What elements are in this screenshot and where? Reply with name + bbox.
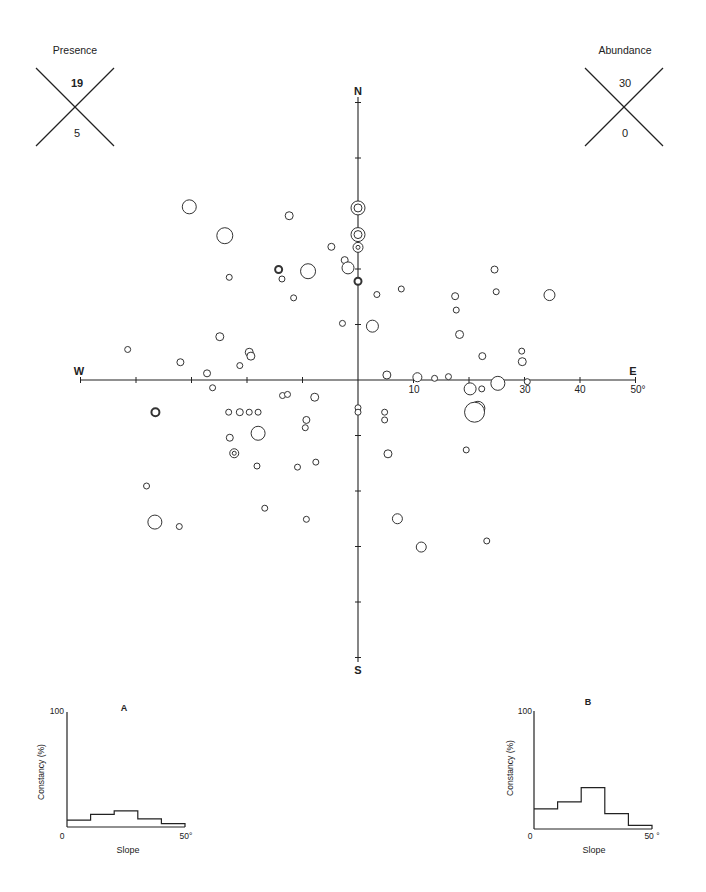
data-point [151, 408, 159, 416]
data-point [384, 450, 392, 458]
data-point [342, 262, 354, 274]
data-point [382, 409, 388, 415]
data-point [302, 425, 308, 431]
data-point [382, 417, 388, 423]
tick-label-40: 40 [574, 384, 586, 395]
data-point [493, 289, 499, 295]
data-point [383, 371, 391, 379]
data-point [216, 333, 224, 341]
data-point [144, 483, 150, 489]
histogram-a-ymax: 100 [50, 706, 64, 716]
data-point [491, 266, 498, 273]
data-point [125, 346, 131, 352]
abundance-title: Abundance [598, 44, 651, 56]
data-point [374, 292, 380, 298]
histogram-a-xmin: 0 [60, 831, 65, 841]
data-point [313, 459, 319, 465]
data-point [416, 542, 426, 552]
histogram-b-title: B [585, 697, 592, 707]
data-point [285, 212, 293, 220]
data-point [251, 426, 265, 440]
data-point [176, 524, 182, 530]
data-point [464, 383, 476, 395]
data-point [392, 514, 402, 524]
histogram-b-xmin: 0 [528, 831, 533, 841]
data-point [246, 409, 252, 415]
abundance-bottom-value: 0 [622, 127, 628, 139]
histogram-a-xlabel: Slope [116, 845, 139, 855]
data-point [275, 266, 282, 273]
data-point [355, 409, 361, 415]
data-point [355, 278, 362, 285]
data-point [524, 379, 530, 385]
histogram-a-ylabel: Constancy (%) [36, 744, 46, 800]
data-point [351, 201, 365, 215]
data-point [519, 348, 525, 354]
data-point [432, 375, 438, 381]
data-point [210, 385, 216, 391]
data-point [279, 276, 285, 282]
data-point [177, 359, 184, 366]
data-point [398, 286, 404, 292]
data-point [217, 228, 233, 244]
tick-label-50: 50° [630, 384, 645, 395]
data-point [226, 434, 233, 441]
data-point [544, 290, 555, 301]
data-point [452, 293, 459, 300]
data-point [247, 352, 255, 360]
data-point [295, 464, 301, 470]
presence-title: Presence [53, 44, 98, 56]
data-point [484, 538, 490, 544]
aspect-slope-chart: Presence 19 5 Abundance 30 0 N S E W 10 … [0, 0, 706, 892]
data-point [204, 370, 211, 377]
data-point [456, 330, 464, 338]
data-point [301, 264, 316, 279]
data-point [413, 373, 422, 382]
data-points [125, 200, 555, 552]
presence-legend: Presence 19 5 [36, 44, 114, 146]
data-point [463, 447, 469, 453]
data-point [236, 409, 243, 416]
histogram-b-ymax: 100 [518, 706, 532, 716]
data-point [339, 320, 345, 326]
data-point [254, 463, 260, 469]
data-point [453, 307, 459, 313]
histogram-a-xmax: 50° [180, 831, 193, 841]
abundance-legend: Abundance 30 0 [585, 44, 663, 146]
data-point [262, 505, 268, 511]
data-point [237, 363, 243, 369]
histogram-b-xlabel: Slope [582, 845, 605, 855]
north-label: N [354, 85, 362, 97]
data-point [291, 295, 297, 301]
data-point [255, 409, 261, 415]
data-point [182, 200, 196, 214]
data-point [230, 449, 239, 458]
data-point [148, 515, 162, 529]
data-point [285, 391, 291, 397]
histogram-a: A 100 0 50° Slope Constancy (%) [36, 703, 192, 855]
presence-bottom-value: 5 [74, 127, 80, 139]
data-point [226, 409, 232, 415]
data-point [311, 393, 319, 401]
data-point [479, 353, 486, 360]
histogram-a-title: A [121, 703, 128, 713]
data-point [465, 402, 485, 422]
histogram-b-ylabel: Constancy (%) [505, 740, 515, 796]
data-point [479, 386, 485, 392]
data-point [366, 320, 378, 332]
tick-label-30: 30 [519, 384, 531, 395]
data-point [518, 358, 526, 366]
data-point [353, 242, 363, 252]
data-point [491, 376, 505, 390]
presence-top-value: 19 [71, 77, 83, 89]
abundance-top-value: 30 [619, 77, 631, 89]
data-point [445, 374, 451, 380]
tick-label-10: 10 [408, 384, 420, 395]
east-label: E [629, 365, 636, 377]
data-point [303, 416, 310, 423]
histogram-b: B 100 0 50 ° Slope Constancy (%) [505, 697, 660, 855]
compass-axes: N S E W 10 30 40 50° [74, 85, 646, 676]
data-point [226, 274, 232, 280]
west-label: W [74, 365, 85, 377]
south-label: S [354, 664, 361, 676]
